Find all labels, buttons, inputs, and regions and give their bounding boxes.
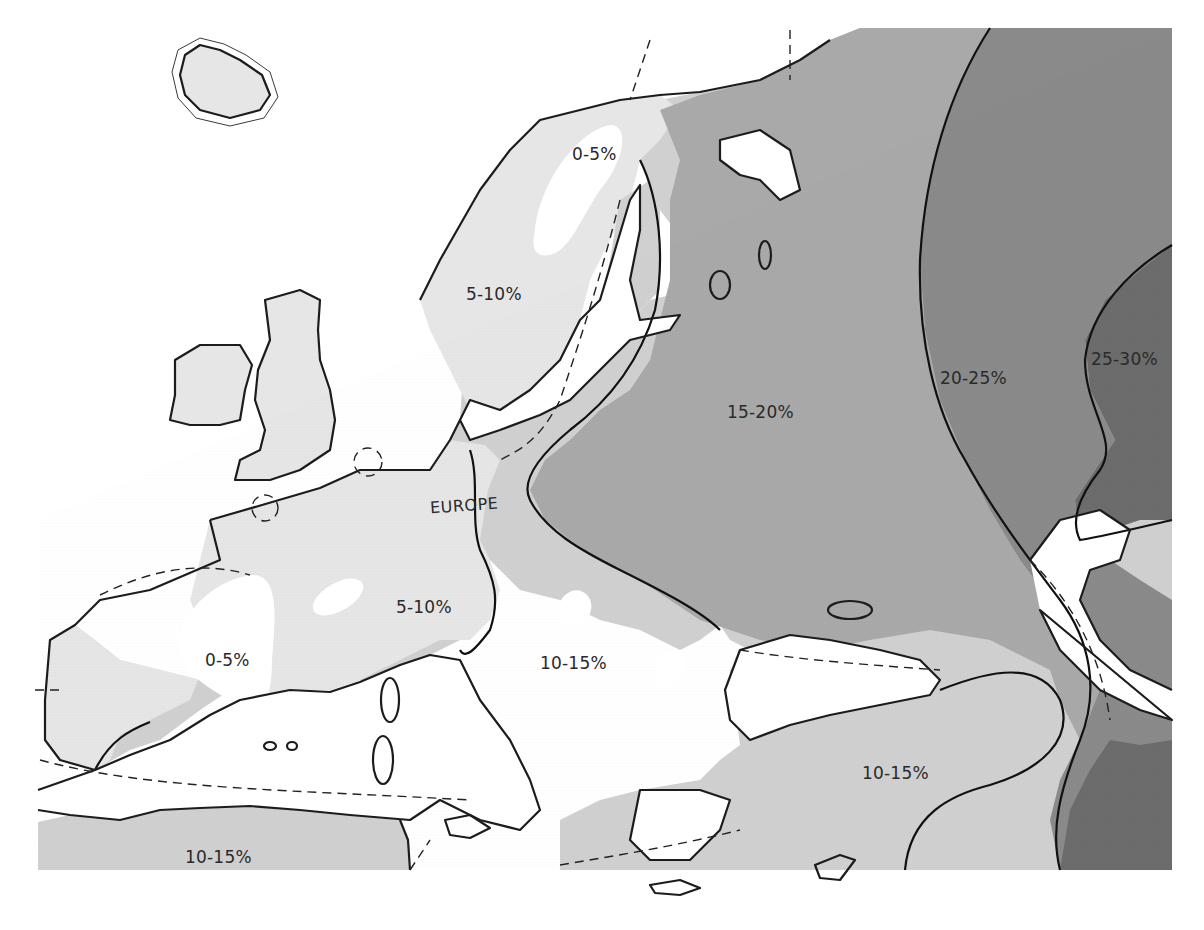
label-scandinavia-5-10: 5-10% [466,284,522,304]
label-anatolia-10-15: 10-15% [862,763,929,783]
zone-5-10-ireland [170,345,252,425]
label-west-europe-5-10: 5-10% [396,597,452,617]
label-iberia-0-5: 0-5% [205,650,250,670]
label-scandinavia-0-5: 0-5% [572,144,617,164]
label-north-africa-10-15: 10-15% [185,847,252,867]
label-russia-15-20: 15-20% [727,402,794,422]
label-far-east-25-30: 25-30% [1091,349,1158,369]
label-east-20-25: 20-25% [940,368,1007,388]
europe-percentage-map [0,0,1204,930]
label-balkans-10-15: 10-15% [540,653,607,673]
